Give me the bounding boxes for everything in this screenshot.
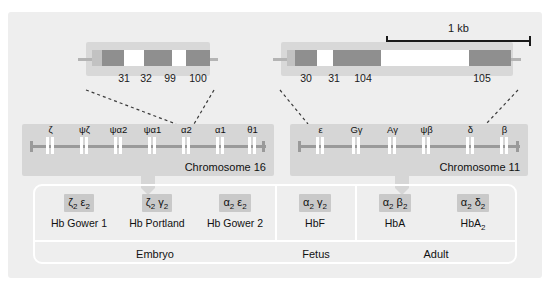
gene-label: ψβ (420, 124, 432, 135)
hemoglobin-name: HbF (277, 217, 353, 229)
gene-alpha1: α1 (212, 137, 229, 154)
hemoglobin-item: α2 δ2 HbA2 (435, 192, 511, 232)
chromosome-label: Chromosome 11 (440, 161, 521, 173)
gene-label: θ1 (247, 124, 258, 135)
hemoglobin-item: ζ2 γ2 Hb Portland (119, 192, 195, 229)
gene-label: ψζ (79, 124, 90, 135)
cluster-axis (298, 145, 520, 148)
gene-label: α2 (181, 124, 192, 135)
gene-g-gamma: Gγ (348, 137, 365, 154)
gene-label: ψα1 (144, 124, 162, 135)
gene-label: ζ (48, 124, 52, 135)
axis-tick-right (262, 141, 265, 152)
gene-zeta: ζ (42, 137, 59, 154)
hemoglobin-name: Hb Gower 1 (41, 217, 117, 229)
globin-gene-figure: 1 kb 31 32 99 100 30 31 104 105 (8, 12, 542, 278)
axis-tick-right (516, 141, 519, 152)
gene-label: δ (468, 124, 473, 135)
gene-psi-zeta: ψζ (76, 137, 93, 154)
gene-theta1: θ1 (244, 137, 261, 154)
hemoglobin-name: HbA (357, 217, 433, 232)
stage-label-embryo: Embryo (35, 244, 275, 264)
gene-psi-beta: ψβ (418, 137, 435, 154)
hemoglobin-name: HbA2 (435, 217, 511, 232)
panel-divider-horizontal (35, 240, 515, 242)
stage-label-adult: Adult (357, 244, 515, 264)
gene-delta: δ (462, 137, 479, 154)
chromosome-label: Chromosome 16 (185, 161, 266, 173)
alpha-globin-cluster: ζ ψζ ψα2 ψα1 α2 α1 θ1 Chromosome 16 (22, 124, 274, 176)
chain-composition: α2 β2 (379, 194, 412, 212)
hemoglobin-name: Hb Gower 2 (197, 217, 273, 229)
gene-beta: β (496, 137, 513, 154)
gene-a-gamma: Aγ (384, 137, 401, 154)
gene-alpha2: α2 (178, 137, 195, 154)
chain-composition: ζ2 ε2 (64, 194, 94, 212)
hemoglobin-item: α2 γ2 HbF (277, 192, 353, 229)
stage-label-fetus: Fetus (277, 244, 355, 264)
axis-tick-left (30, 141, 33, 152)
hemoglobin-bracket: ζ2 ε2 Hb Gower 1 ζ2 γ2 Hb Portland α2 ε2… (33, 184, 517, 264)
chain-composition: α2 δ2 (457, 194, 489, 212)
chain-composition: α2 ε2 (219, 194, 250, 212)
chain-composition: α2 γ2 (299, 194, 331, 212)
axis-tick-left (298, 141, 301, 152)
gene-label: Gγ (350, 124, 362, 135)
gene-label: ε (318, 124, 322, 135)
hemoglobin-item: ζ2 ε2 Hb Gower 1 (41, 192, 117, 229)
gene-psi-alpha2: ψα2 (110, 137, 127, 154)
hemoglobin-item: α2 β2 HbA (357, 192, 433, 232)
beta-globin-cluster: ε Gγ Aγ ψβ δ β Chromosome 11 (290, 124, 528, 176)
hemoglobin-name: Hb Portland (119, 217, 195, 229)
gene-label: β (502, 124, 507, 135)
gene-label: α1 (215, 124, 226, 135)
hemoglobin-item: α2 ε2 Hb Gower 2 (197, 192, 273, 229)
chain-composition: ζ2 γ2 (142, 194, 172, 212)
gene-label: ψα2 (110, 124, 128, 135)
gene-psi-alpha1: ψα1 (144, 137, 161, 154)
leader-lines-alpha (8, 12, 542, 142)
gene-epsilon: ε (312, 137, 329, 154)
gene-label: Aγ (387, 124, 398, 135)
